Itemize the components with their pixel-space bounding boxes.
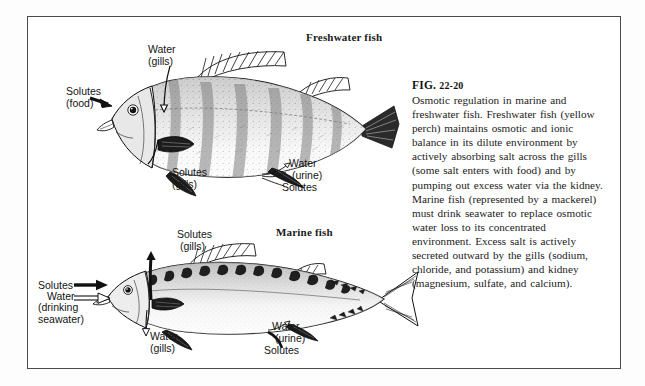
figure-page: Freshwater fish Marine fish Water (gills…	[0, 0, 645, 386]
perch-head	[97, 86, 155, 168]
label-freshwater-solutes-gills: Solutes (gills)	[172, 166, 207, 190]
label-freshwater-water-gills: Water (gills)	[148, 43, 176, 67]
figure-caption: FIG. 22-20 Osmotic regulation in marine …	[412, 79, 608, 290]
heading-marine-fish: Marine fish	[276, 226, 333, 238]
label-freshwater-solutes-food: Solutes (food)	[66, 85, 101, 109]
figure-number-id: 22-20	[439, 80, 463, 91]
figure-number-prefix: FIG.	[412, 79, 436, 91]
label-marine-water-gills: Water (gills)	[150, 330, 178, 354]
heading-freshwater-fish: Freshwater fish	[306, 31, 382, 43]
label-marine-solutes-gills: Solutes (gills)	[177, 228, 212, 252]
perch-caudal-fin	[362, 106, 399, 148]
label-marine-drinking-seawater: (drinking seawater)	[38, 301, 84, 325]
arrow-mf-solutes-in	[74, 280, 108, 290]
figure-number: FIG. 22-20	[412, 79, 608, 91]
label-marine-solutes-urine: Solutes	[264, 344, 299, 356]
marine-fish-illustration	[74, 244, 418, 350]
label-freshwater-water-urine: Water (urine)	[289, 157, 322, 181]
freshwater-fish-illustration	[90, 51, 399, 196]
figure-caption-body: Osmotic regulation in marine and freshwa…	[412, 93, 608, 290]
label-freshwater-solutes-urine: Solutes	[282, 181, 317, 193]
label-marine-water-urine: Water (urine)	[272, 320, 305, 344]
